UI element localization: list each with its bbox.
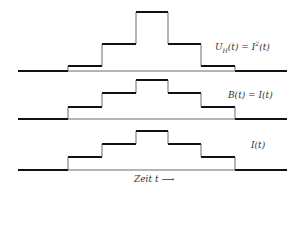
i-panel	[18, 131, 287, 170]
time-axis-label: Zeit t ⟶	[134, 174, 174, 184]
uh-label: UH(t) = I2(t)	[215, 40, 270, 54]
b-label: B(t) = I(t)	[228, 90, 273, 100]
i-label: I(t)	[251, 140, 265, 150]
arrow-right-icon: ⟶	[161, 174, 174, 184]
